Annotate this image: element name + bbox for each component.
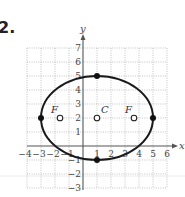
co-vertex-bottom [94, 157, 100, 163]
svg-text:3: 3 [75, 99, 81, 109]
svg-text:−4: −4 [18, 149, 32, 159]
x-axis-label: x [179, 140, 185, 151]
focus-left-label: F [50, 104, 59, 115]
y-axis-label: y [79, 23, 86, 34]
focus-left [57, 115, 63, 121]
x-axis-arrow-icon [172, 144, 178, 149]
vertex-left [38, 115, 44, 121]
svg-text:7: 7 [75, 43, 81, 53]
ellipse-graph: x y −4 −3 −2 −1 1 2 3 4 5 6 7 6 5 4 3 2 … [0, 0, 185, 197]
svg-text:1: 1 [75, 127, 81, 137]
focus-right [131, 115, 137, 121]
svg-text:−3: −3 [32, 149, 46, 159]
co-vertex-top [94, 73, 100, 79]
svg-text:−3: −3 [68, 183, 82, 193]
svg-text:5: 5 [150, 149, 156, 159]
focus-right-label: F [124, 104, 133, 115]
y-axis-arrow-icon [81, 34, 86, 40]
center-label: C [101, 104, 109, 115]
svg-text:2: 2 [75, 113, 81, 123]
svg-text:4: 4 [136, 149, 142, 159]
svg-text:−2: −2 [46, 149, 59, 159]
svg-text:−2: −2 [68, 169, 81, 179]
svg-text:4: 4 [75, 85, 81, 95]
y-tick-labels: 7 6 5 4 3 2 1 −1 −2 −3 [68, 43, 82, 193]
svg-text:6: 6 [75, 57, 81, 67]
svg-text:6: 6 [164, 149, 170, 159]
center-point [94, 115, 100, 121]
vertex-right [150, 115, 156, 121]
x-tick-labels: −4 −3 −2 −1 1 2 3 4 5 6 [18, 149, 170, 159]
